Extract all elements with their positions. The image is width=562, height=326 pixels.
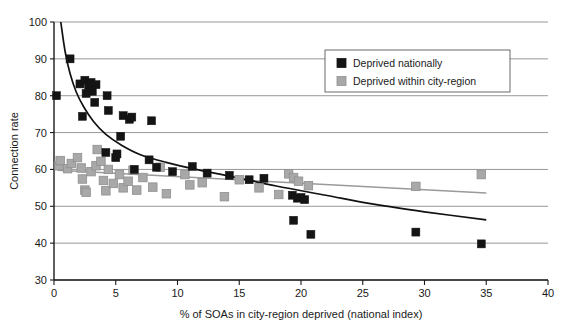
data-point (225, 171, 233, 179)
data-point (139, 173, 148, 182)
x-tick-label: 0 (51, 287, 57, 299)
x-tick-label: 35 (480, 287, 492, 299)
x-tick-labels: 0510152025303540 (51, 287, 554, 299)
data-point (91, 98, 99, 106)
data-point (77, 164, 86, 173)
x-tick-label: 5 (113, 287, 119, 299)
chart-canvas: 30405060708090100 0510152025303540 Depri… (0, 0, 562, 326)
data-point (56, 156, 65, 165)
y-tick-label: 40 (35, 237, 47, 249)
data-point (104, 106, 112, 114)
y-tick-label: 50 (35, 200, 47, 212)
y-axis (50, 22, 54, 280)
data-point (99, 176, 108, 185)
data-point (82, 90, 90, 98)
x-tick-label: 30 (418, 287, 430, 299)
data-point (260, 174, 268, 182)
y-tick-label: 90 (35, 53, 47, 65)
y-tick-label: 100 (29, 16, 47, 28)
data-point (412, 228, 420, 236)
data-point (307, 230, 315, 238)
scatter-chart: 30405060708090100 0510152025303540 Depri… (0, 0, 562, 326)
data-point (148, 117, 156, 125)
y-tick-label: 60 (35, 163, 47, 175)
x-axis-title: % of SOAs in city-region deprived (natio… (180, 308, 423, 320)
data-point (477, 240, 485, 248)
data-point (301, 196, 309, 204)
data-point (93, 145, 102, 154)
data-point (181, 170, 190, 179)
data-point (304, 181, 313, 190)
data-point (245, 176, 253, 184)
data-point (78, 175, 87, 184)
x-axis (54, 280, 548, 285)
data-point (113, 150, 121, 158)
data-point (133, 186, 142, 195)
data-point (145, 156, 153, 164)
x-tick-label: 10 (171, 287, 183, 299)
data-point (162, 190, 171, 199)
data-point (412, 182, 421, 191)
y-axis-title: Connection rate (8, 112, 20, 190)
data-point (203, 169, 211, 177)
x-tick-label: 15 (233, 287, 245, 299)
x-tick-label: 25 (357, 287, 369, 299)
data-point (188, 162, 196, 170)
legend-swatch (337, 77, 346, 86)
data-point (97, 157, 106, 166)
legend-label: Deprived within city-region (353, 75, 476, 87)
data-point (117, 132, 125, 140)
data-point (102, 148, 110, 156)
data-point (220, 192, 229, 201)
data-point (52, 92, 60, 100)
data-point (109, 179, 118, 188)
data-point (73, 153, 82, 162)
data-point (477, 170, 486, 179)
legend: Deprived nationallyDeprived within city-… (325, 50, 510, 92)
data-point (82, 188, 91, 197)
data-point (103, 92, 111, 100)
data-point (198, 178, 207, 187)
data-point (153, 163, 161, 171)
data-point (78, 112, 86, 120)
y-tick-labels: 30405060708090100 (29, 16, 47, 286)
y-tick-label: 70 (35, 127, 47, 139)
data-point (290, 216, 298, 224)
data-point (169, 168, 177, 176)
data-point (104, 165, 113, 174)
data-point (275, 190, 284, 199)
legend-swatch (337, 59, 346, 68)
y-tick-label: 80 (35, 90, 47, 102)
y-tick-label: 30 (35, 274, 47, 286)
data-point (130, 165, 138, 173)
data-point (115, 170, 124, 179)
x-tick-label: 20 (295, 287, 307, 299)
data-point (294, 177, 303, 186)
x-tick-label: 40 (542, 287, 554, 299)
data-point (149, 183, 158, 192)
data-point (255, 184, 264, 193)
legend-label: Deprived nationally (353, 57, 443, 69)
data-point (235, 176, 244, 185)
data-point (66, 55, 74, 63)
data-point (124, 177, 133, 186)
data-point (186, 181, 195, 190)
data-point (92, 81, 100, 89)
data-point (128, 113, 136, 121)
